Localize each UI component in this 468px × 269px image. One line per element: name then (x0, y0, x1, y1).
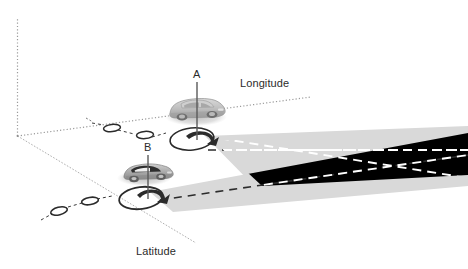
node-b-ground-marker (118, 184, 170, 211)
vehicle-b (117, 164, 173, 186)
origin (17, 135, 19, 137)
vehicle-a (165, 99, 227, 127)
node-b-label: B (144, 141, 151, 153)
longitude-axis (18, 97, 312, 136)
trajectory-marker (103, 124, 121, 133)
trajectory-marker (50, 205, 68, 216)
latitude-axis-label: Latitude (136, 245, 176, 257)
node-a-label: A (193, 68, 200, 80)
trajectory-marker (136, 131, 153, 139)
diagram-svg (0, 0, 468, 269)
longitude-axis-label: Longitude (240, 77, 289, 89)
trajectory-latitude (41, 196, 112, 220)
trajectory-marker (81, 196, 99, 206)
node-a-ground-marker (169, 126, 219, 152)
diagram-canvas: Longitude Latitude A B (0, 0, 468, 269)
